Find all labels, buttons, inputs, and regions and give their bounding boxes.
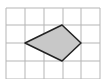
kite-shape xyxy=(25,25,81,61)
grid-diagram xyxy=(0,0,106,79)
